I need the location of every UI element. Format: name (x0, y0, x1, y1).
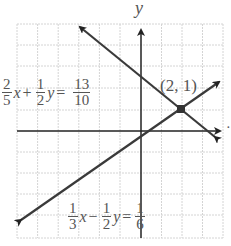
x-axis-label-dot: · (226, 120, 231, 136)
eq1-b-den: 2 (37, 93, 45, 108)
eq1-equals: = (56, 84, 65, 102)
eq2-a-den: 3 (69, 217, 77, 232)
eq2-a-num: 1 (68, 201, 78, 217)
eq2-var-y: y (113, 208, 120, 226)
eq2-b-den: 2 (103, 217, 111, 232)
eq1-c-num: 13 (73, 77, 90, 93)
eq1-var-x: x (14, 84, 21, 102)
eq1-plus: + (23, 84, 32, 102)
eq2-var-x: x (80, 208, 87, 226)
eq2-c-den: 6 (136, 217, 144, 232)
eq1-var-y: y (47, 84, 54, 102)
equation-2: 13 x − 12 y = 16 (68, 201, 145, 232)
eq2-equals: = (122, 208, 131, 226)
eq1-a-den: 5 (3, 93, 11, 108)
eq1-a-num: 2 (2, 77, 12, 93)
equation-1: 25 x + 12 y = 1310 (2, 77, 90, 108)
eq1-b-num: 1 (36, 77, 46, 93)
intersection-point (177, 105, 185, 113)
eq2-b-num: 1 (102, 201, 112, 217)
point-label: (2, 1) (160, 76, 197, 96)
y-axis-label: y (135, 0, 143, 19)
eq2-minus: − (89, 208, 98, 226)
eq1-c-den: 10 (74, 93, 89, 108)
eq2-c-num: 1 (135, 201, 145, 217)
